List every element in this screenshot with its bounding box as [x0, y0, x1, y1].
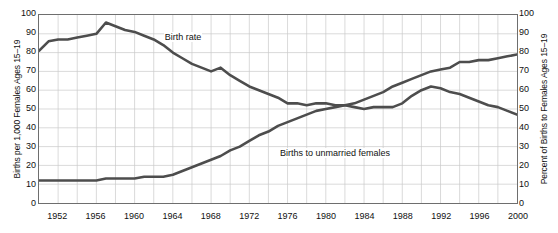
x-tick-1988: 1988	[383, 211, 423, 221]
x-tick-1976: 1976	[268, 211, 308, 221]
x-tick-1960: 1960	[114, 211, 154, 221]
x-tick-1952: 1952	[37, 211, 77, 221]
series-label-births-to-unmarried-females: Births to unmarried females	[279, 148, 391, 158]
x-tick-1972: 1972	[229, 211, 269, 221]
x-tick-1984: 1984	[344, 211, 384, 221]
x-tick-1996: 1996	[460, 211, 500, 221]
series-label-birth-rate: Birth rate	[164, 32, 203, 42]
x-tick-1968: 1968	[191, 211, 231, 221]
series-line-births-to-unmarried-females	[39, 54, 517, 180]
x-tick-1992: 1992	[421, 211, 461, 221]
x-tick-1980: 1980	[306, 211, 346, 221]
data-lines	[39, 15, 517, 203]
x-tick-2000: 2000	[498, 211, 538, 221]
plot-area: Birth rate Births to unmarried females	[38, 14, 518, 204]
teen-birth-rate-chart: Births per 1,000 Females Ages 15–19 Perc…	[0, 0, 558, 233]
x-tick-1964: 1964	[152, 211, 192, 221]
x-tick-1956: 1956	[76, 211, 116, 221]
